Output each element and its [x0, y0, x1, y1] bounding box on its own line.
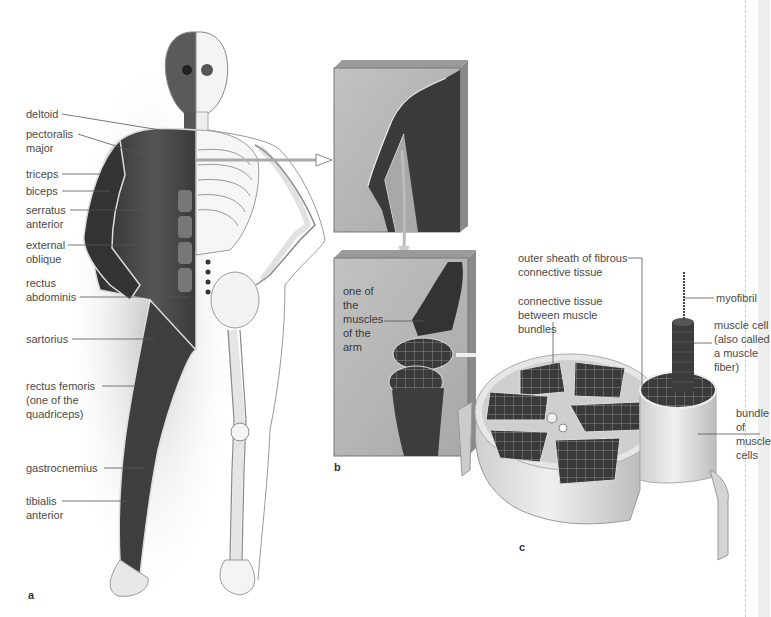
label-biceps: biceps — [26, 184, 58, 198]
label-tibialis-anterior: tibialis anterior — [26, 494, 63, 522]
label-gastrocnemius: gastrocnemius — [26, 461, 98, 475]
panel-a-body-figure — [60, 32, 332, 617]
panel-letter-b: b — [334, 461, 341, 473]
label-external-oblique: external oblique — [26, 238, 65, 266]
panel-letter-c: c — [519, 541, 525, 553]
label-triceps: triceps — [26, 167, 58, 181]
label-pectoralis-major: pectoralis major — [26, 127, 73, 155]
label-connective-tissue-between: connective tissue between muscle bundles — [518, 294, 602, 336]
label-arm-muscle: one of the muscles of the arm — [343, 284, 383, 354]
label-bundle-of-muscle-cells: bundle of muscle cells — [736, 406, 771, 462]
label-rectus-abdominis: rectus abdominis — [26, 276, 76, 304]
panel-c-cross-section — [458, 258, 760, 560]
label-deltoid: deltoid — [26, 107, 58, 121]
panel-letter-a: a — [28, 589, 34, 601]
label-myofibril: myofibril — [716, 291, 757, 305]
label-sartorius: sartorius — [26, 332, 68, 346]
label-muscle-cell: muscle cell (also called a muscle fiber) — [714, 318, 770, 374]
label-outer-sheath: outer sheath of fibrous connective tissu… — [518, 251, 627, 279]
panel-b-arm-closeup — [334, 60, 476, 456]
label-serratus-anterior: serratus anterior — [26, 203, 66, 231]
label-rectus-femoris: rectus femoris (one of the quadriceps) — [26, 379, 95, 421]
